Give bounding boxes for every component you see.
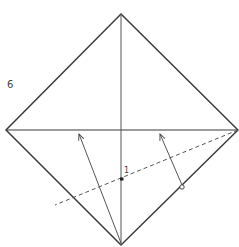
reference-point-marker <box>120 178 124 181</box>
point-label: 1 <box>124 166 129 175</box>
fold-arrow-left <box>79 134 121 243</box>
circle-marker <box>180 185 184 189</box>
step-number-label: 6 <box>7 79 13 90</box>
dashed-fold-line <box>55 130 238 205</box>
fold-arrow-right <box>160 134 182 185</box>
origami-diagram: 6 1 <box>0 0 239 247</box>
